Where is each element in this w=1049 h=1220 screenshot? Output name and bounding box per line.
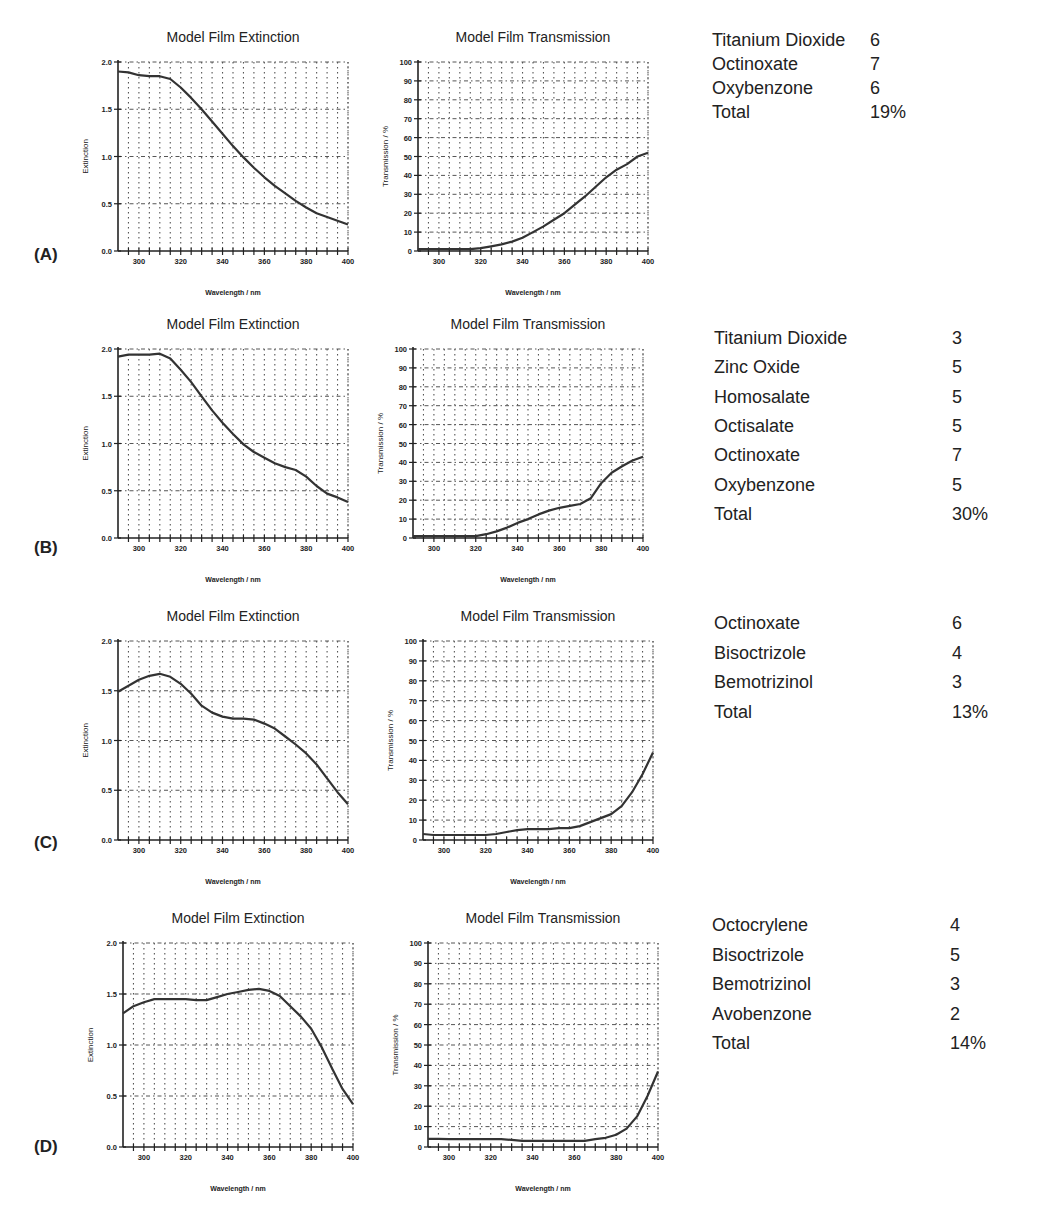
ingredient-value: 13% xyxy=(952,702,988,723)
ingredient-table: Octocrylene4Bisoctrizole5Bemotrizinol3Av… xyxy=(712,915,1010,1063)
x-tick-label: 320 xyxy=(484,1153,497,1162)
x-tick-label: 400 xyxy=(637,544,650,553)
ingredient-value: 4 xyxy=(952,643,962,664)
y-tick-label: 40 xyxy=(399,458,407,467)
y-tick-label: 90 xyxy=(399,364,407,373)
y-tick-label: 10 xyxy=(409,816,417,825)
transmission-chart: Model Film Transmission30032034036038040… xyxy=(365,315,655,590)
x-tick-label: 360 xyxy=(568,1153,581,1162)
y-tick-label: 0.0 xyxy=(102,836,112,845)
ingredient-name: Homosalate xyxy=(714,387,810,408)
ingredient-value: 3 xyxy=(950,974,960,995)
y-tick-label: 70 xyxy=(409,697,417,706)
x-tick-label: 320 xyxy=(174,544,187,553)
chart-title: Model Film Transmission xyxy=(451,316,606,332)
y-axis-label: Transmission / % xyxy=(376,413,385,474)
y-axis-label: Extinction xyxy=(81,723,90,758)
y-tick-label: 100 xyxy=(404,637,417,646)
chart-title: Model Film Extinction xyxy=(171,910,304,926)
y-axis-label: Transmission / % xyxy=(391,1014,400,1075)
ingredient-name: Bisoctrizole xyxy=(712,945,804,966)
x-tick-label: 320 xyxy=(479,846,492,855)
y-tick-label: 1.5 xyxy=(102,687,112,696)
data-line xyxy=(423,752,653,835)
ingredient-value: 2 xyxy=(950,1004,960,1025)
ingredient-value: 3 xyxy=(952,328,962,349)
x-tick-label: 340 xyxy=(526,1153,539,1162)
y-tick-label: 100 xyxy=(394,345,407,354)
x-tick-label: 380 xyxy=(605,846,618,855)
x-tick-label: 300 xyxy=(133,544,146,553)
x-axis-label: Wavelength / nm xyxy=(510,878,565,886)
x-tick-label: 400 xyxy=(342,544,355,553)
ingredient-name: Titanium Dioxide xyxy=(714,328,847,349)
ingredient-value: 5 xyxy=(952,475,962,496)
y-tick-label: 20 xyxy=(414,1102,422,1111)
x-tick-label: 320 xyxy=(179,1153,192,1162)
ingredient-value: 5 xyxy=(952,357,962,378)
y-tick-label: 1.0 xyxy=(102,737,112,746)
ingredient-value: 4 xyxy=(950,915,960,936)
ingredient-name: Total xyxy=(712,1033,750,1054)
ingredient-name: Total xyxy=(714,702,752,723)
x-tick-label: 400 xyxy=(652,1153,665,1162)
panel-label: (D) xyxy=(34,1137,58,1157)
x-tick-label: 300 xyxy=(138,1153,151,1162)
ingredient-value: 5 xyxy=(952,416,962,437)
y-tick-label: 60 xyxy=(409,717,417,726)
x-axis-label: Wavelength / nm xyxy=(500,576,555,584)
ingredient-name: Octinoxate xyxy=(714,445,800,466)
y-tick-label: 30 xyxy=(409,776,417,785)
extinction-chart: Model Film Extinction3003203403603804000… xyxy=(70,315,360,590)
y-tick-label: 0.0 xyxy=(102,534,112,543)
y-tick-label: 60 xyxy=(414,1021,422,1030)
y-tick-label: 1.0 xyxy=(107,1041,117,1050)
x-tick-label: 300 xyxy=(133,846,146,855)
x-tick-label: 360 xyxy=(258,846,271,855)
y-tick-label: 80 xyxy=(399,383,407,392)
ingredient-table: Titanium Dioxide3Zinc Oxide5Homosalate5O… xyxy=(714,328,1012,533)
ingredient-value: 30% xyxy=(952,504,988,525)
y-axis-label: Extinction xyxy=(86,1028,95,1063)
chart-title: Model Film Transmission xyxy=(461,608,616,624)
chart-title: Model Film Extinction xyxy=(166,608,299,624)
x-tick-label: 300 xyxy=(438,846,451,855)
x-axis-label: Wavelength / nm xyxy=(515,1185,570,1193)
x-tick-label: 340 xyxy=(511,544,524,553)
ingredient-value: 3 xyxy=(952,672,962,693)
x-tick-label: 320 xyxy=(174,846,187,855)
y-tick-label: 90 xyxy=(414,959,422,968)
x-tick-label: 380 xyxy=(305,1153,318,1162)
transmission-chart: Model Film Transmission30032034036038040… xyxy=(375,607,665,892)
x-tick-label: 400 xyxy=(342,846,355,855)
y-tick-label: 100 xyxy=(409,939,422,948)
ingredient-name: Bisoctrizole xyxy=(714,643,806,664)
y-tick-label: 80 xyxy=(414,980,422,989)
y-tick-label: 50 xyxy=(409,737,417,746)
y-tick-label: 1.5 xyxy=(102,392,112,401)
ingredient-name: Octisalate xyxy=(714,416,794,437)
ingredient-name: Bemotrizinol xyxy=(714,672,813,693)
ingredient-name: Total xyxy=(714,504,752,525)
panel-label: (B) xyxy=(34,538,58,558)
y-tick-label: 0 xyxy=(413,836,417,845)
ingredient-value: 5 xyxy=(950,945,960,966)
extinction-chart: Model Film Extinction3003203403603804000… xyxy=(75,909,365,1199)
y-tick-label: 50 xyxy=(399,440,407,449)
x-tick-label: 300 xyxy=(428,544,441,553)
x-tick-label: 400 xyxy=(647,846,660,855)
ingredient-name: Oxybenzone xyxy=(714,475,815,496)
y-tick-label: 2.0 xyxy=(102,637,112,646)
x-tick-label: 380 xyxy=(610,1153,623,1162)
y-tick-label: 0.0 xyxy=(107,1143,117,1152)
x-tick-label: 340 xyxy=(216,544,229,553)
ingredient-value: 6 xyxy=(952,613,962,634)
chart-title: Model Film Transmission xyxy=(466,910,621,926)
panel-d: (D) Model Film Extinction300320340360380… xyxy=(0,0,1049,300)
x-axis-label: Wavelength / nm xyxy=(205,576,260,584)
x-tick-label: 380 xyxy=(300,846,313,855)
ingredient-name: Bemotrizinol xyxy=(712,974,811,995)
y-tick-label: 90 xyxy=(409,657,417,666)
panel-label: (C) xyxy=(34,833,58,853)
y-axis-label: Transmission / % xyxy=(386,710,395,771)
